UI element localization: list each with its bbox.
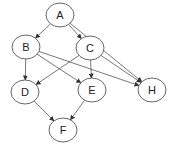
node-label: E <box>88 84 95 96</box>
node-f: F <box>49 118 77 142</box>
node-label: B <box>22 41 29 53</box>
node-d: D <box>11 80 39 104</box>
node-label: F <box>60 124 67 136</box>
nodes: ABCDEHF <box>11 3 166 142</box>
node-label: C <box>86 42 94 54</box>
node-h: H <box>138 78 166 102</box>
node-a: A <box>46 3 74 27</box>
edge-c-h <box>101 55 141 82</box>
directed-graph: ABCDEHF <box>0 0 171 147</box>
node-c: C <box>76 36 104 60</box>
node-label: H <box>148 84 156 96</box>
edge-d-f <box>34 101 54 121</box>
edge-c-d <box>36 55 79 84</box>
node-label: D <box>21 86 29 98</box>
edge-a-b <box>35 24 50 38</box>
node-label: A <box>56 9 64 21</box>
edge-a-c <box>69 24 82 38</box>
node-e: E <box>78 78 106 102</box>
edge-e-f <box>70 100 84 120</box>
node-b: B <box>12 35 40 59</box>
edge-c-e <box>91 60 92 78</box>
